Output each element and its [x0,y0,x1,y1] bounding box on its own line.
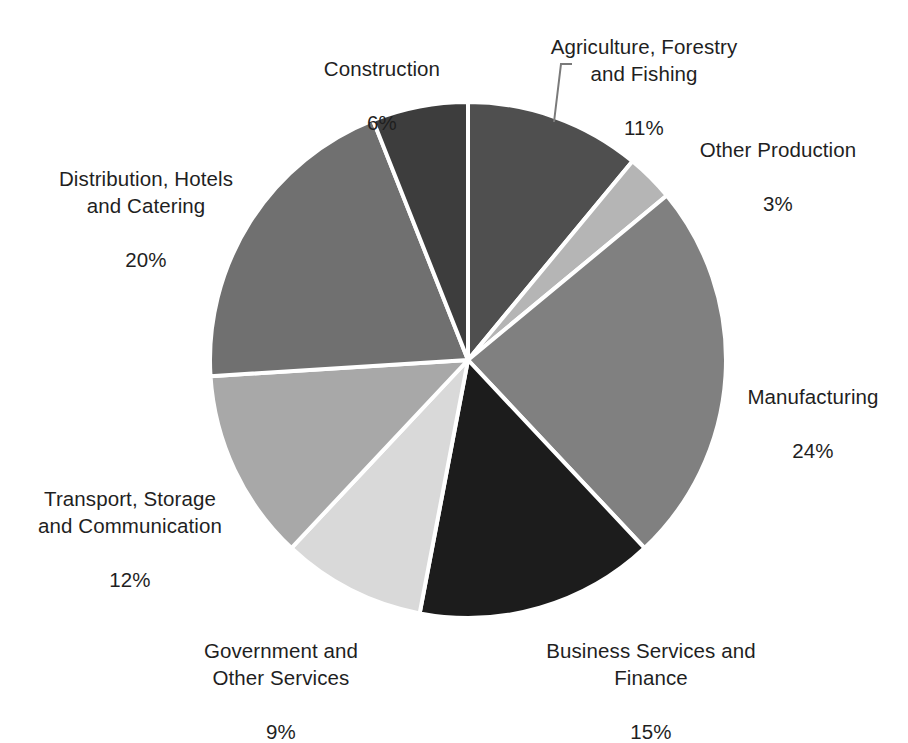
slice-label-transport-storage-and-communication-value: 12% [12,566,248,593]
slice-label-agriculture-name: Agriculture, Forestry and Fishing [516,33,772,87]
slice-label-transport-storage-and-communication: Transport, Storage and Communication 12% [12,458,248,620]
slice-label-government-and-other-services-value: 9% [152,718,410,743]
slice-label-construction-name: Construction [282,55,482,82]
slice-label-other-production: Other Production 3% [650,109,906,244]
pie-slice-group [210,102,726,618]
slice-label-business-services-and-finance-value: 15% [520,718,782,743]
slice-label-distribution-hotels-and-catering-value: 20% [18,246,274,273]
slice-label-distribution-hotels-and-catering: Distribution, Hotels and Catering 20% [18,138,274,300]
slice-label-manufacturing-value: 24% [718,437,908,464]
slice-label-other-production-value: 3% [650,190,906,217]
slice-label-business-services-and-finance: Business Services and Finance 15% [520,610,782,743]
slice-label-other-production-name: Other Production [650,136,906,163]
slice-label-construction-value: 6% [282,109,482,136]
slice-label-manufacturing-name: Manufacturing [718,383,908,410]
slice-label-manufacturing: Manufacturing 24% [718,356,908,491]
slice-label-business-services-and-finance-name: Business Services and Finance [520,637,782,691]
slice-label-government-and-other-services: Government and Other Services 9% [152,610,410,743]
slice-label-government-and-other-services-name: Government and Other Services [152,637,410,691]
slice-label-transport-storage-and-communication-name: Transport, Storage and Communication [12,485,248,539]
slice-label-distribution-hotels-and-catering-name: Distribution, Hotels and Catering [18,165,274,219]
slice-label-construction: Construction 6% [282,28,482,163]
